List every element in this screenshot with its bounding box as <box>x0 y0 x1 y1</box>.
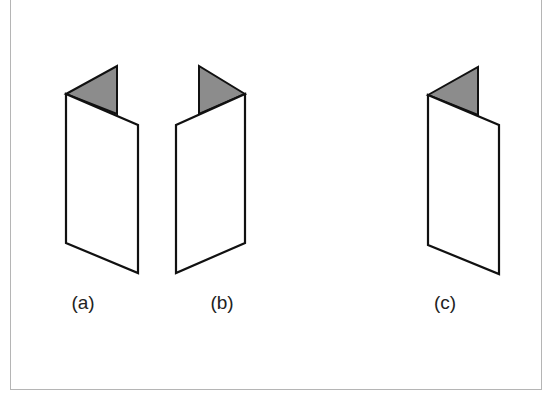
folded-panels-diagram <box>0 0 547 401</box>
panel-a <box>66 66 138 273</box>
label-a: (a) <box>71 292 94 314</box>
panel-face-b <box>176 94 245 273</box>
label-c: (c) <box>434 292 456 314</box>
panel-face-c <box>428 95 499 274</box>
panel-b <box>176 66 245 273</box>
label-b: (b) <box>210 292 233 314</box>
panel-c <box>428 67 499 274</box>
panel-face-a <box>66 94 138 273</box>
